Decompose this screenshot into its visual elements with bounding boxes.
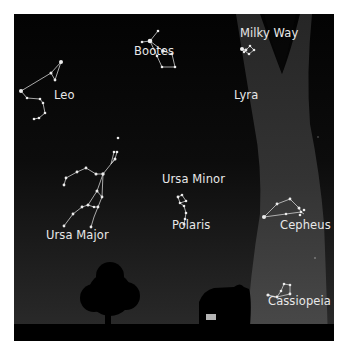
label-cepheus: Cepheus xyxy=(280,220,331,232)
label-polaris: Polaris xyxy=(172,220,210,232)
label-milky-way: Milky Way xyxy=(240,28,298,40)
ground xyxy=(14,324,334,341)
label-lyra: Lyra xyxy=(234,90,258,102)
label-bootes: Bootes xyxy=(134,46,174,58)
label-ursa-major: Ursa Major xyxy=(46,230,109,242)
night-sky-scene: Milky Way Bootes Leo Lyra Ursa Minor Pol… xyxy=(14,14,334,341)
label-ursa-minor: Ursa Minor xyxy=(162,174,225,186)
label-cassiopeia: Cassiopeia xyxy=(268,296,331,308)
label-leo: Leo xyxy=(54,90,75,102)
house-window xyxy=(206,314,216,320)
